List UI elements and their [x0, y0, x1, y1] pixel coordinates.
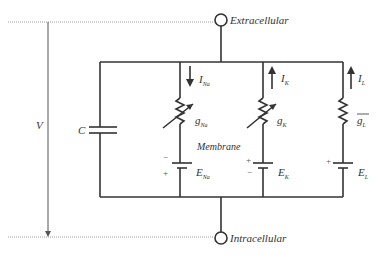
current-arrow-up-icon — [347, 66, 355, 89]
intracellular-terminal — [215, 197, 227, 244]
k-conductance-label: gK — [277, 114, 288, 128]
capacitor-label: C — [78, 124, 86, 136]
l-emf-label: EL — [357, 166, 369, 180]
extracellular-terminal — [215, 14, 227, 62]
capacitor — [89, 62, 117, 197]
l-conductance-label: gL — [357, 114, 367, 128]
voltage-label: V — [36, 119, 44, 131]
voltage-arrow — [45, 22, 51, 237]
l-current-label: IL — [357, 72, 366, 86]
circuit-diagram: V Extracellular Intracellular C — [0, 0, 381, 259]
na-emf-label: ENa — [195, 166, 210, 180]
leak-branch — [333, 62, 355, 197]
k-current-label: IK — [280, 72, 290, 86]
membrane-label: Membrane — [196, 141, 241, 152]
na-conductance-label: gNa — [195, 114, 208, 128]
l-top-sign: + — [326, 156, 331, 166]
intracellular-label: Intracellular — [229, 232, 287, 244]
current-arrow-down-icon — [186, 66, 194, 87]
na-top-sign: − — [163, 152, 168, 162]
na-bottom-sign: + — [163, 168, 168, 178]
na-current-label: INa — [198, 73, 210, 87]
current-arrow-up-icon — [268, 66, 276, 89]
k-top-sign: + — [246, 155, 251, 165]
k-emf-label: EK — [277, 166, 290, 180]
extracellular-label: Extracellular — [229, 14, 289, 26]
k-bottom-sign: − — [247, 167, 252, 177]
